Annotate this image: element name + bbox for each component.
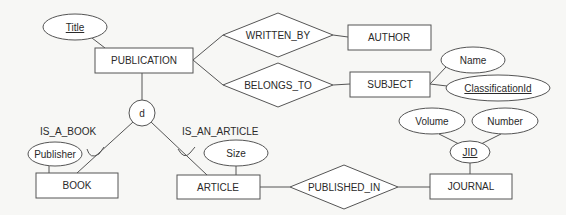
- attribute-label: Size: [226, 148, 246, 159]
- attribute-label: ClassificationId: [464, 83, 531, 94]
- entity-author[interactable]: AUTHOR: [348, 25, 431, 50]
- disjoint-symbol: d: [139, 108, 145, 119]
- subset-symbol-article: [178, 147, 195, 156]
- subset-symbol-book: [87, 147, 104, 156]
- entity-journal[interactable]: JOURNAL: [430, 174, 512, 199]
- specialization: d IS_A_BOOK IS_AN_ARTICLE: [40, 100, 259, 137]
- attribute-volume[interactable]: Volume: [399, 108, 465, 134]
- relationship-label: BELONGS_TO: [244, 80, 312, 91]
- attribute-label: JID: [463, 147, 478, 158]
- diagram-canvas: PUBLICATION AUTHOR SUBJECT BOOK ARTICLE …: [0, 0, 566, 215]
- written-by-to-author: [333, 35, 348, 37]
- entity-subject[interactable]: SUBJECT: [350, 72, 430, 97]
- relationship-label: WRITTEN_BY: [246, 30, 311, 41]
- entity-label: SUBJECT: [367, 79, 413, 90]
- relationship-belongs-to[interactable]: BELONGS_TO: [223, 63, 333, 107]
- jid-to-number: [481, 134, 501, 144]
- publication-to-belongs-to: [193, 60, 223, 85]
- attribute-title[interactable]: Title: [43, 14, 107, 40]
- disjoint-circle[interactable]: d: [129, 100, 155, 126]
- attribute-size[interactable]: Size: [204, 140, 268, 166]
- jid-to-volume: [439, 134, 459, 144]
- relationship-written-by[interactable]: WRITTEN_BY: [223, 13, 333, 57]
- attribute-publisher[interactable]: Publisher: [28, 142, 82, 166]
- attribute-label: Name: [460, 55, 487, 66]
- entity-label: ARTICLE: [197, 182, 239, 193]
- attribute-label: Publisher: [34, 149, 76, 160]
- subject-to-classification-id: [430, 84, 447, 86]
- publication-to-written-by: [193, 35, 223, 60]
- title-to-publication: [92, 38, 105, 48]
- attribute-label: Title: [66, 22, 85, 33]
- entity-label: JOURNAL: [448, 181, 495, 192]
- attribute-label: Number: [487, 116, 523, 127]
- entity-publication[interactable]: PUBLICATION: [95, 48, 193, 73]
- belongs-to-to-subject: [333, 84, 350, 85]
- subject-to-name: [430, 67, 446, 84]
- label-is-a-book: IS_A_BOOK: [40, 126, 96, 137]
- entity-label: AUTHOR: [368, 32, 410, 43]
- attribute-jid[interactable]: JID: [450, 141, 490, 163]
- entity-book[interactable]: BOOK: [36, 173, 118, 198]
- relationship-label: PUBLISHED_IN: [308, 182, 380, 193]
- attribute-name[interactable]: Name: [441, 47, 505, 73]
- attribute-number[interactable]: Number: [472, 108, 538, 134]
- attribute-classification-id[interactable]: ClassificationId: [446, 75, 550, 101]
- entity-label: PUBLICATION: [111, 55, 177, 66]
- entity-label: BOOK: [63, 180, 92, 191]
- entity-article[interactable]: ARTICLE: [177, 175, 260, 199]
- eer-diagram: PUBLICATION AUTHOR SUBJECT BOOK ARTICLE …: [0, 0, 566, 215]
- attribute-label: Volume: [415, 116, 449, 127]
- label-is-an-article: IS_AN_ARTICLE: [182, 126, 259, 137]
- relationship-published-in[interactable]: PUBLISHED_IN: [290, 165, 398, 209]
